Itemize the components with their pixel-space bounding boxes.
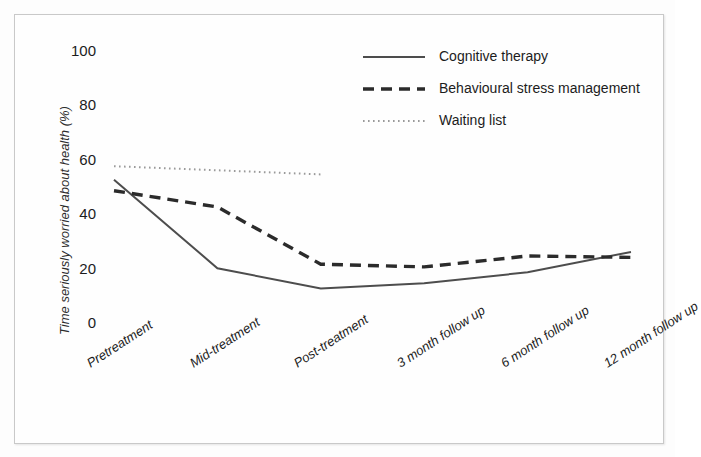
y-tick-label: 40 — [56, 205, 96, 222]
y-tick-label: 100 — [56, 42, 96, 59]
y-tick-label: 60 — [56, 151, 96, 168]
legend-label: Cognitive therapy — [439, 48, 548, 64]
legend-label: Behavioural stress management — [439, 80, 640, 96]
y-tick-label: 0 — [56, 314, 96, 331]
series-line-2 — [114, 166, 321, 174]
legend-label: Waiting list — [439, 112, 506, 128]
series-line-0 — [114, 180, 631, 289]
y-tick-label: 80 — [56, 96, 96, 113]
series-line-1 — [114, 191, 631, 267]
chart-frame: Time seriously worried about health (%) … — [14, 14, 664, 444]
y-tick-label: 20 — [56, 260, 96, 277]
